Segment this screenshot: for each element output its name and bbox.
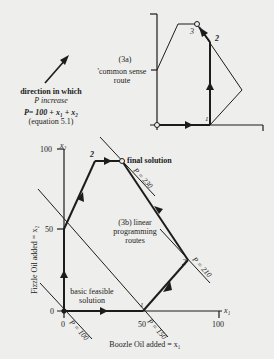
point-label-b1: 1 xyxy=(140,301,144,310)
y-axis-symbol: x₂ xyxy=(60,141,66,150)
point-label-b2-right: 2 xyxy=(182,258,186,267)
point-label-b2-left: 2 xyxy=(90,150,94,159)
y-tick-0: 0 xyxy=(50,307,54,316)
x-axis-title: Boozle Oil added = x₁ xyxy=(80,340,210,349)
equation-reference: (equation 5.1) xyxy=(6,117,96,126)
x-axis-symbol: x₁ xyxy=(224,306,230,315)
final-solution-label: final solution xyxy=(127,156,172,165)
diagram-3a xyxy=(150,14,263,131)
basic-feasible-label-line1: basic feasible xyxy=(62,287,122,296)
point-label-a3: 3 xyxy=(190,27,194,36)
y-tick-100: 100 xyxy=(40,145,52,154)
basic-feasible-label-line2: solution xyxy=(62,296,122,305)
x-tick-0: 0 xyxy=(61,320,65,329)
y-tick-50: 50 xyxy=(45,225,53,234)
direction-label-line2: P increase xyxy=(6,96,96,105)
direction-label-line1: direction in which xyxy=(6,87,96,96)
point-label-a2: 2 xyxy=(215,34,219,43)
diagram-3b-label-line1: (3b) linear xyxy=(100,218,170,227)
x-tick-50: 50 xyxy=(138,320,146,329)
x-tick-100: 100 xyxy=(212,320,224,329)
point-label-a1: 1 xyxy=(205,115,209,124)
y-axis-title: Fizzle Oil added = x₂ xyxy=(30,226,39,294)
common-sense-label-line1: 'common sense xyxy=(92,67,152,76)
direction-arrow-icon xyxy=(45,55,69,83)
diagram-3a-label: (3a) xyxy=(100,55,150,64)
equation-label: P= 100 + x₁ + x₂ xyxy=(6,108,96,117)
common-sense-label-line2: route xyxy=(92,76,152,85)
diagram-3b-label-line3: routes xyxy=(100,236,170,245)
diagram-3b-label-line2: programming xyxy=(100,227,170,236)
diagram-canvas xyxy=(0,0,274,359)
